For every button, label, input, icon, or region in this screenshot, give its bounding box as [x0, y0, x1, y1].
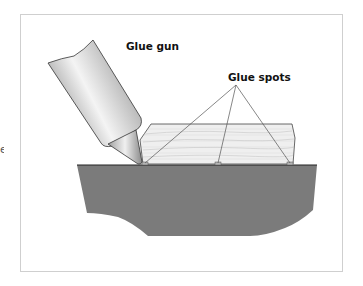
base-workpiece — [77, 165, 317, 236]
glue-gun-barrel — [48, 40, 141, 147]
glue-spot — [142, 162, 148, 165]
glue-gun-label: Glue gun — [126, 40, 179, 52]
glue-spots-label: Glue spots — [228, 71, 291, 83]
wood-block — [140, 124, 295, 164]
glue-application-diagram — [0, 0, 363, 286]
